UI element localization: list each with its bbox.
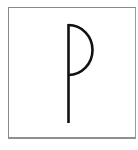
rune-symbol-icon	[0, 0, 138, 150]
symbol-bowl	[69, 25, 93, 75]
